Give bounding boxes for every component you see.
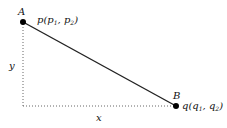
point-a-label: A: [17, 6, 25, 17]
point-a: [20, 19, 26, 25]
point-b-coord-label: q(q1, q2): [182, 100, 223, 112]
point-b-label: B: [172, 90, 180, 101]
horizontal-leg-label: x: [96, 112, 102, 123]
segment-ab: [23, 22, 176, 106]
point-a-coord-label: p(p1, p2): [37, 14, 78, 26]
point-b: [173, 103, 179, 109]
distance-diagram: A p(p1, p2) B q(q1, q2) y x: [0, 0, 227, 128]
vertical-leg-label: y: [8, 60, 15, 71]
